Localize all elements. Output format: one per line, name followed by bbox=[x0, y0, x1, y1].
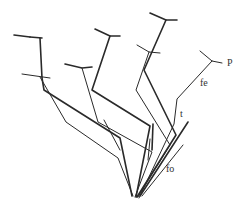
label-t: t bbox=[180, 108, 183, 119]
branch-p-tbar bbox=[200, 51, 222, 63]
branch-far-left-lower-tbar bbox=[22, 74, 50, 78]
branch-top-middle bbox=[92, 36, 150, 197]
branch-mid-left-tbar bbox=[65, 64, 92, 68]
branch-short-spur-a bbox=[152, 124, 153, 150]
label-fo: fo bbox=[166, 163, 174, 174]
branching-tree-diagram: Pfetfo bbox=[0, 0, 245, 210]
branch-t-spur bbox=[140, 122, 188, 196]
label-p: P bbox=[227, 57, 233, 68]
tree-branches bbox=[14, 13, 222, 198]
branch-top-middle-tbar bbox=[95, 29, 120, 36]
branch-far-left-upper bbox=[40, 38, 132, 196]
branch-fo-spur bbox=[142, 145, 183, 196]
branch-far-left-upper-tbar-right bbox=[30, 37, 42, 38]
branch-left-inner-spur bbox=[104, 120, 120, 150]
branch-top-right-tbar bbox=[150, 13, 177, 20]
branch-second-right-tbar bbox=[137, 45, 160, 53]
label-fe: fe bbox=[200, 77, 208, 88]
branch-far-left-upper-tbar-left bbox=[14, 35, 30, 37]
